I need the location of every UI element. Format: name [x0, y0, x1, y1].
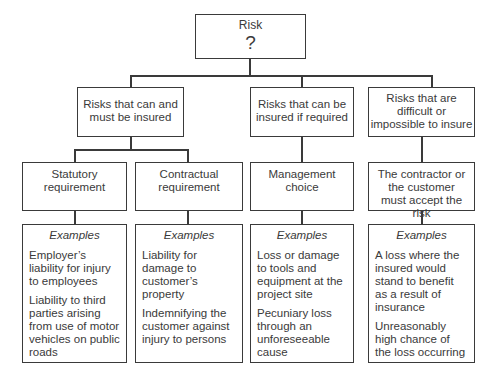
subcategory-label: The contractor or the customer must acce…: [378, 168, 466, 219]
category-label: Risks that can be insured if required: [256, 98, 348, 123]
examples-accept-risk: Examples A loss where the insured would …: [368, 224, 475, 363]
question-mark-icon: ?: [196, 33, 305, 53]
examples-contractual: Examples Liability for damage to custome…: [135, 224, 243, 363]
connector-to-sub-2: [187, 149, 189, 162]
connector-to-cat-2: [301, 75, 303, 87]
category-label: Risks that can and must be insured: [83, 98, 178, 123]
connector-cat2-to-sub-3: [301, 136, 303, 162]
example-item: Loss or damage to tools and equipment at…: [251, 249, 353, 301]
connector-cat3-to-sub-4: [421, 136, 423, 162]
connector-cat1-horizontal: [74, 149, 188, 151]
sub-management: Management choice: [250, 162, 354, 211]
connector-to-cat-3: [431, 75, 433, 87]
connector-sub1-to-ex1: [74, 210, 76, 224]
sub-accept-risk: The contractor or the customer must acce…: [368, 162, 475, 211]
example-item: Liability for damage to customer’s prope…: [136, 249, 242, 301]
sub-contractual: Contractual requirement: [135, 162, 243, 211]
connector-level2-horizontal: [130, 75, 432, 77]
example-item: Pecuniary loss through an unforeseeable …: [251, 307, 353, 359]
examples-title: Examples: [23, 229, 126, 242]
connector-to-cat-1: [130, 75, 132, 87]
category-must-insure: Risks that can and must be insured: [77, 87, 184, 137]
examples-title: Examples: [369, 229, 474, 242]
example-item: A loss where the insured would stand to …: [369, 249, 474, 314]
category-difficult-to-insure: Risks that are difficult or impossible t…: [368, 87, 475, 137]
root-node: Risk ?: [195, 14, 306, 59]
examples-management: Examples Loss or damage to tools and equ…: [250, 224, 354, 363]
subcategory-label: Statutory requirement: [44, 168, 105, 193]
example-item: Employer’s liability for injury to emplo…: [23, 249, 126, 288]
connector-root-down: [249, 58, 251, 75]
category-label: Risks that are difficult or impossible t…: [371, 92, 473, 130]
examples-title: Examples: [136, 229, 242, 242]
connector-cat1-down: [130, 136, 132, 149]
category-insure-if-required: Risks that can be insured if required: [250, 87, 354, 137]
example-item: Indemnifying the customer against injury…: [136, 307, 242, 346]
example-item: Unreasonably high chance of the loss occ…: [369, 320, 474, 359]
sub-statutory: Statutory requirement: [22, 162, 127, 211]
connector-to-sub-1: [74, 149, 76, 162]
subcategory-label: Contractual requirement: [158, 168, 219, 193]
examples-title: Examples: [251, 229, 353, 242]
example-item: Liability to third parties arising from …: [23, 294, 126, 359]
subcategory-label: Management choice: [268, 168, 335, 193]
examples-statutory: Examples Employer’s liability for injury…: [22, 224, 127, 363]
root-label: Risk: [196, 19, 305, 32]
connector-sub2-to-ex2: [187, 210, 189, 224]
connector-sub3-to-ex3: [301, 210, 303, 224]
